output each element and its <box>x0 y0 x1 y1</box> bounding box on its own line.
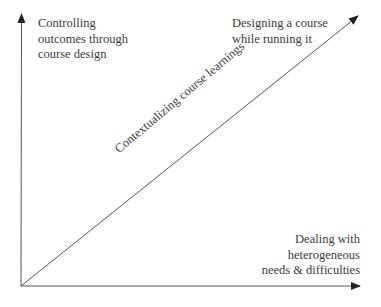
label-top-right: Designing a course while running it <box>232 16 328 47</box>
label-bottom-right: Dealing with heterogeneous needs & diffi… <box>262 232 360 279</box>
label-line: outcomes through <box>38 32 128 48</box>
label-line: Dealing with <box>262 232 360 248</box>
vertical-axis <box>21 14 22 286</box>
label-line: Designing a course <box>232 16 328 32</box>
label-line: course design <box>38 47 128 63</box>
label-line: needs & difficulties <box>262 263 360 279</box>
label-line: heterogeneous <box>262 248 360 264</box>
label-line: while running it <box>232 32 328 48</box>
label-top-left: Controlling outcomes through course desi… <box>38 16 128 63</box>
label-line: Controlling <box>38 16 128 32</box>
